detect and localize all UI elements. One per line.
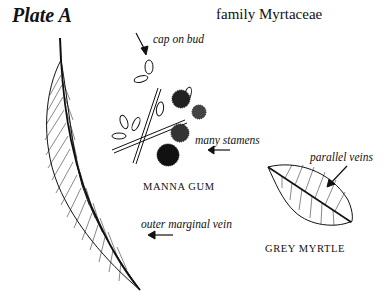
annotation-cap-on-bud: cap on bud (153, 33, 204, 45)
family-name: family Myrtaceae (216, 6, 322, 23)
annotation-parallel-veins: parallel veins (310, 151, 373, 163)
caption-manna-gum: MANNA GUM (143, 181, 215, 192)
caption-grey-myrtle: GREY MYRTLE (265, 243, 345, 254)
annotation-outer-marginal-vein: outer marginal vein (141, 218, 232, 230)
manna-gum-leaf-illustration (45, 38, 140, 290)
annotation-many-stamens: many stamens (195, 134, 260, 146)
plate-title: Plate A (12, 4, 72, 27)
manna-gum-branch-illustration (112, 60, 206, 166)
